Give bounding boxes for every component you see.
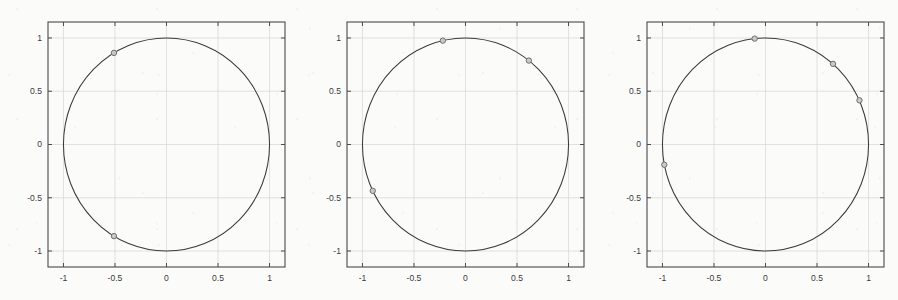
x-tick-label: -0.5: [108, 273, 123, 283]
gridlines: [347, 22, 584, 267]
plot-panel-1: -1-0.500.51-1-0.500.51: [0, 0, 299, 300]
y-tick-label: -1: [34, 246, 42, 256]
y-tick-label: -0.5: [27, 193, 42, 203]
x-tick-label: -0.5: [407, 273, 422, 283]
y-tick-label: 0: [636, 140, 641, 150]
marker-group: [661, 36, 862, 168]
unit-circle-figure-row: -1-0.500.51-1-0.500.51 -1-0.500.51-1-0.5…: [0, 0, 898, 300]
x-tick-label: 0: [164, 273, 169, 283]
data-point-marker: [830, 61, 835, 66]
x-tick-label: 0.5: [811, 273, 823, 283]
x-tick-label: 0.5: [511, 273, 523, 283]
x-tick-label: 0: [763, 273, 768, 283]
x-tick-label: 1: [566, 273, 571, 283]
gridlines: [48, 22, 285, 267]
y-tick-label: 1: [37, 33, 42, 43]
data-point-marker: [111, 233, 116, 238]
data-point-marker: [752, 36, 757, 41]
data-point-marker: [661, 162, 666, 167]
x-tick-label: 1: [267, 273, 272, 283]
y-tick-label: 0: [337, 140, 342, 150]
gridlines: [647, 22, 884, 267]
plot-panel-3: -1-0.500.51-1-0.500.51: [599, 0, 898, 300]
data-point-marker: [370, 188, 375, 193]
x-tick-label: -0.5: [706, 273, 721, 283]
data-point-marker: [856, 98, 861, 103]
y-tick-label: 0.5: [329, 86, 341, 96]
y-tick-label: 0: [37, 140, 42, 150]
y-tick-label: 0.5: [30, 86, 42, 96]
y-tick-label: 1: [337, 33, 342, 43]
data-point-marker: [111, 50, 116, 55]
x-tick-label: 0: [463, 273, 468, 283]
axes-2: -1-0.500.51-1-0.500.51: [299, 0, 598, 300]
y-tick-label: 1: [636, 33, 641, 43]
plot-panel-2: -1-0.500.51-1-0.500.51: [299, 0, 598, 300]
data-point-marker: [526, 58, 531, 63]
y-tick-label: 0.5: [629, 86, 641, 96]
y-tick-label: -0.5: [626, 193, 641, 203]
y-tick-label: -0.5: [327, 193, 342, 203]
x-tick-label: -1: [658, 273, 666, 283]
data-point-marker: [440, 38, 445, 43]
x-tick-label: 1: [866, 273, 871, 283]
axes-1: -1-0.500.51-1-0.500.51: [0, 0, 299, 300]
x-tick-label: 0.5: [212, 273, 224, 283]
x-tick-label: -1: [359, 273, 367, 283]
axes-3: -1-0.500.51-1-0.500.51: [599, 0, 898, 300]
marker-group: [370, 38, 532, 194]
y-tick-label: -1: [633, 246, 641, 256]
x-tick-label: -1: [60, 273, 68, 283]
y-tick-label: -1: [334, 246, 342, 256]
